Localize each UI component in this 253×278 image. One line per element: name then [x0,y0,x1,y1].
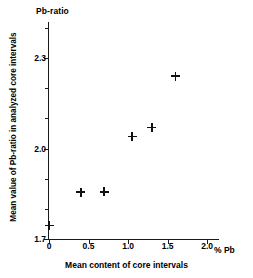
x-axis-tick-label: 1.0 [122,242,134,251]
data-point [128,132,137,141]
chart-title: Pb-ratio [36,6,69,16]
y-axis-minor-tick [45,209,49,210]
plot-area: 1.72.02.3 00.51.01.52.0 [48,22,219,240]
data-point [45,221,54,230]
y-axis-tick-label: 1.7 [34,235,46,244]
x-axis-tick-label: 2.0 [201,242,213,251]
data-point [76,188,85,197]
x-axis-unit-label: % Pb [214,245,235,255]
y-axis-tick-label: 2.3 [34,54,46,63]
x-axis-tick-label: 0.5 [83,242,95,251]
data-point [100,187,109,196]
y-axis-tick-label: 2.0 [34,144,46,153]
y-axis-minor-tick [45,179,49,180]
x-axis-tick-label: 1.5 [162,242,174,251]
scatter-plot-figure: Pb-ratio 1.72.02.3 00.51.01.52.0 % Pb Me… [0,0,253,278]
y-axis-minor-tick [45,88,49,89]
y-axis-minor-tick [45,28,49,29]
data-point [147,123,156,132]
y-axis-title: Mean value of Pb-ratio in analyzed core … [9,27,19,227]
x-axis-title: Mean content of core intervals [0,260,253,270]
y-axis-minor-tick [45,118,49,119]
data-point [171,72,180,81]
x-axis-tick-label: 0 [47,242,52,251]
